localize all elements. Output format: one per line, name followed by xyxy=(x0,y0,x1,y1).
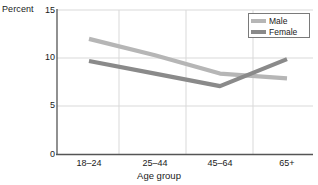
legend-label-female: Female xyxy=(269,27,297,37)
legend-label-male: Male xyxy=(269,16,287,26)
legend-item-male: Male xyxy=(251,16,309,26)
line-chart: Percent 15 10 5 0 18–24 25–44 45–64 65+ … xyxy=(0,0,318,185)
legend-item-female: Female xyxy=(251,27,309,37)
legend-swatch-male xyxy=(251,19,266,23)
legend: Male Female xyxy=(248,13,310,38)
legend-swatch-female xyxy=(251,30,266,34)
